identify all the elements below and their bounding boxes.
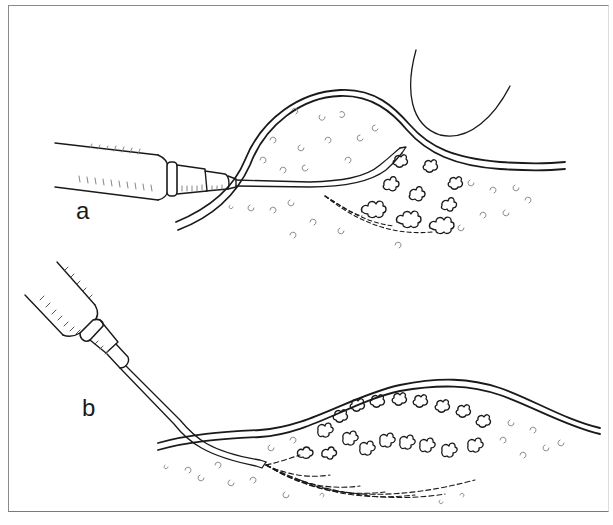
panel-a	[55, 50, 565, 248]
panel-label-a: a	[76, 199, 89, 223]
panel-b	[25, 262, 600, 504]
injection-tracks-b	[266, 455, 475, 498]
deposits-a	[361, 155, 462, 234]
skin-surface-a	[176, 90, 565, 230]
illustration	[0, 0, 613, 525]
panel-label-b: b	[82, 396, 95, 420]
deposits-b	[297, 393, 490, 459]
syringe-a-icon	[55, 143, 406, 200]
organ-outline-icon	[411, 50, 510, 136]
skin-surface-b	[158, 380, 600, 450]
syringe-b-icon	[25, 262, 266, 468]
